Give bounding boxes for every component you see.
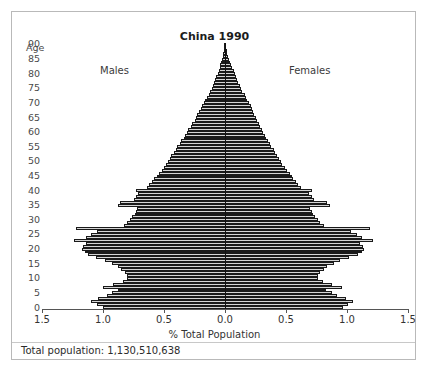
y-axis-tick-label: 35 bbox=[12, 200, 40, 210]
y-axis-tick-label: 15 bbox=[12, 259, 40, 269]
bar-female bbox=[225, 280, 323, 283]
bar-female bbox=[225, 239, 373, 242]
bar-female bbox=[225, 286, 342, 289]
bar-female bbox=[225, 66, 232, 69]
bar-female bbox=[225, 93, 245, 96]
bar-female bbox=[225, 297, 346, 300]
bar-male bbox=[152, 180, 225, 183]
bar-male bbox=[184, 137, 225, 140]
bar-female bbox=[225, 157, 279, 160]
bar-female bbox=[225, 198, 314, 201]
bar-female bbox=[225, 81, 238, 84]
bar-male bbox=[171, 154, 225, 157]
bar-male bbox=[83, 245, 225, 248]
bar-male bbox=[207, 96, 225, 99]
bar-male bbox=[127, 274, 225, 277]
bar-male bbox=[98, 297, 225, 300]
bar-male bbox=[118, 204, 225, 207]
bar-male bbox=[138, 192, 225, 195]
bar-female bbox=[225, 213, 313, 216]
y-axis-tick-label: 45 bbox=[12, 171, 40, 181]
bar-female bbox=[225, 294, 337, 297]
x-axis-tick bbox=[164, 309, 165, 313]
bar-female bbox=[225, 145, 271, 148]
population-pyramid-figure: China 1990 Age Males Females % Total Pop… bbox=[11, 11, 416, 360]
chart-title: China 1990 bbox=[12, 30, 417, 43]
bar-female bbox=[225, 110, 253, 113]
y-axis-tick-label: 10 bbox=[12, 273, 40, 283]
bar-female bbox=[225, 175, 292, 178]
bar-male bbox=[176, 148, 225, 151]
bar-male bbox=[118, 289, 225, 292]
bar-male bbox=[192, 122, 225, 125]
bar-female bbox=[225, 116, 256, 119]
bar-female bbox=[225, 195, 312, 198]
bar-male bbox=[204, 101, 225, 104]
bar-female bbox=[225, 210, 312, 213]
bar-female bbox=[225, 207, 310, 210]
bar-male bbox=[127, 277, 225, 280]
bar-female bbox=[225, 180, 296, 183]
bar-male bbox=[85, 251, 225, 254]
bar-male bbox=[212, 87, 225, 90]
x-axis-tick bbox=[42, 309, 43, 313]
bar-male bbox=[199, 110, 225, 113]
footer-divider bbox=[12, 342, 415, 343]
bar-female bbox=[225, 265, 327, 268]
x-axis-tick bbox=[103, 309, 104, 313]
bar-male bbox=[180, 142, 225, 145]
bar-female bbox=[225, 142, 270, 145]
bar-female bbox=[225, 277, 318, 280]
x-axis-title: % Total Population bbox=[12, 329, 417, 340]
bar-female bbox=[225, 215, 315, 218]
bar-female bbox=[225, 160, 281, 163]
bar-female bbox=[225, 233, 357, 236]
bar-male bbox=[136, 210, 225, 213]
bar-male bbox=[162, 169, 225, 172]
x-axis-line bbox=[43, 309, 409, 310]
bar-female bbox=[225, 236, 362, 239]
bar-male bbox=[137, 207, 225, 210]
bar-male bbox=[205, 99, 225, 102]
bar-female bbox=[225, 166, 285, 169]
plot-area bbox=[43, 43, 409, 309]
bar-male bbox=[86, 242, 225, 245]
bar-female bbox=[225, 137, 266, 140]
y-axis-tick-label: 60 bbox=[12, 127, 40, 137]
y-axis-tick-label: 85 bbox=[12, 54, 40, 64]
bar-female bbox=[225, 122, 259, 125]
bar-male bbox=[214, 81, 225, 84]
bar-male bbox=[127, 221, 225, 224]
bar-male bbox=[157, 175, 225, 178]
bar-male bbox=[82, 248, 225, 251]
bar-male bbox=[188, 128, 225, 131]
x-axis-tick-label: 0.5 bbox=[144, 314, 184, 326]
bar-male bbox=[123, 280, 225, 283]
x-axis-tick-label: 0.0 bbox=[205, 314, 245, 326]
bar-male bbox=[218, 72, 225, 75]
bar-male bbox=[120, 201, 225, 204]
bar-male bbox=[105, 259, 225, 262]
x-axis-tick bbox=[225, 309, 226, 313]
bar-female bbox=[225, 224, 324, 227]
bar-female bbox=[225, 186, 301, 189]
bar-female bbox=[225, 69, 234, 72]
bar-female bbox=[225, 289, 326, 292]
bar-female bbox=[225, 268, 324, 271]
bar-male bbox=[187, 131, 225, 134]
bar-female bbox=[225, 230, 351, 233]
bar-female bbox=[225, 248, 364, 251]
bar-male bbox=[191, 125, 225, 128]
y-axis-tick-label: 50 bbox=[12, 156, 40, 166]
bar-male bbox=[159, 172, 225, 175]
bar-female bbox=[225, 107, 252, 110]
bar-male bbox=[216, 75, 225, 78]
bar-female bbox=[225, 192, 309, 195]
bar-male bbox=[97, 303, 225, 306]
bar-female bbox=[225, 189, 312, 192]
bar-female bbox=[225, 84, 240, 87]
bar-female bbox=[225, 245, 363, 248]
bar-male bbox=[96, 256, 225, 259]
bar-female bbox=[225, 177, 293, 180]
bar-female bbox=[225, 90, 242, 93]
